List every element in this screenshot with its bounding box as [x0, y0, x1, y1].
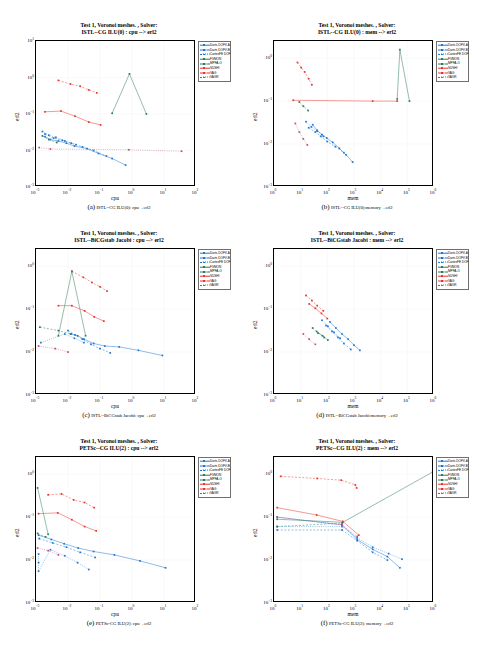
- data-point: [70, 333, 72, 335]
- data-point: [292, 99, 294, 101]
- x-tick-label: 102: [323, 396, 330, 403]
- plot-panel-d: Test 1, Voronoi meshes. , Solver:ISTL--B…: [243, 228, 471, 433]
- data-point: [280, 475, 282, 477]
- panel-title-line1: Test 1, Voronoi meshes. , Solver:: [5, 22, 233, 29]
- data-point: [305, 121, 307, 123]
- data-point: [44, 133, 46, 135]
- legend-item[interactable]: VAGR: [438, 491, 467, 496]
- data-point: [297, 62, 299, 64]
- series-cartesfe-dof: [42, 131, 77, 146]
- plot-panel-a: Test 1, Voronoi meshes. , Solver:ISTL--C…: [5, 20, 233, 225]
- data-point: [327, 339, 329, 341]
- data-point: [316, 478, 318, 480]
- data-point: [53, 137, 55, 139]
- legend-item[interactable]: VAGR: [200, 283, 229, 288]
- x-tick-label: 10−2: [63, 188, 72, 195]
- x-tick-label: 101: [296, 188, 303, 195]
- data-point: [316, 514, 318, 516]
- legend-item[interactable]: VAGR: [438, 283, 467, 288]
- x-tick-label: 102: [323, 188, 330, 195]
- data-point: [372, 546, 374, 548]
- plot-canvas-a: [36, 41, 195, 186]
- data-point: [276, 526, 278, 528]
- x-tick-label: 10−3: [31, 188, 40, 195]
- y-axis-label: erl2: [252, 321, 258, 329]
- panel-caption-d: (d) ISTL--BiCGstab Jacobi:memory→erl2: [243, 411, 471, 419]
- data-point: [354, 484, 356, 486]
- data-point: [94, 557, 96, 559]
- y-tick-label: 100: [27, 262, 34, 269]
- data-point: [352, 161, 354, 163]
- x-axis-label: mem: [273, 195, 433, 201]
- data-point: [332, 141, 334, 143]
- series-vagr: [38, 345, 69, 353]
- panel-caption-e: (e) PETSc-CG ILU(2): cpu→erl2: [5, 619, 233, 627]
- plot-canvas-b: [274, 41, 433, 186]
- data-point: [45, 536, 47, 538]
- y-tick-label: 10−1: [263, 305, 272, 312]
- data-point: [64, 555, 66, 557]
- data-point: [334, 146, 336, 148]
- legend-swatch-icon: [438, 283, 448, 288]
- data-point: [79, 551, 81, 553]
- data-point: [128, 149, 130, 151]
- plot-panel-c: Test 1, Voronoi meshes. , Solver:ISTL--B…: [5, 228, 233, 433]
- data-point: [396, 100, 398, 102]
- caption-label: (e): [87, 619, 95, 627]
- series-mpfa-o: [312, 327, 325, 338]
- data-point: [88, 89, 90, 91]
- legend-item[interactable]: VAGR: [200, 75, 229, 80]
- data-point: [40, 342, 42, 344]
- data-point: [106, 155, 108, 157]
- series-darts-dofv-b: [67, 330, 111, 354]
- data-point: [66, 142, 68, 144]
- y-tick-label: 10−2: [25, 348, 34, 355]
- legend-f: Darts DOFV-ADarts DOFV-BCartesFE DOFFVMO…: [436, 457, 469, 498]
- data-point: [343, 343, 345, 345]
- x-tick-label: 106: [430, 604, 437, 611]
- series-mpfa-o: [39, 326, 72, 335]
- data-point: [276, 518, 278, 520]
- gridlines: [36, 457, 195, 602]
- data-point: [359, 349, 361, 351]
- data-point: [276, 529, 278, 531]
- data-point: [91, 282, 93, 284]
- data-point: [317, 332, 319, 334]
- legend-swatch-icon: [438, 491, 448, 496]
- series-fvmon: [276, 471, 433, 523]
- data-point: [302, 138, 304, 140]
- legend-label: VAGR: [210, 75, 219, 80]
- data-point: [64, 333, 66, 335]
- x-axis-label: mem: [273, 403, 433, 409]
- series-darts-dofv-a: [38, 534, 167, 568]
- data-point: [77, 562, 79, 564]
- x-axis-label: mem: [273, 611, 433, 617]
- y-tick-label: 100: [27, 470, 34, 477]
- series-sushi: [44, 110, 101, 126]
- x-axis-label: cpu: [35, 403, 195, 409]
- panel-title-line1: Test 1, Voronoi meshes. , Solver:: [243, 230, 471, 237]
- y-tick-label: 10−2: [25, 146, 34, 153]
- legend-item[interactable]: VAGR: [200, 491, 229, 496]
- data-point: [93, 316, 95, 318]
- data-point: [50, 549, 52, 551]
- x-tick-label: 102: [192, 396, 199, 403]
- data-point: [327, 325, 329, 327]
- data-point: [314, 131, 316, 133]
- x-tick-label: 101: [160, 396, 167, 403]
- data-point: [50, 148, 52, 150]
- series-sushi: [276, 507, 359, 536]
- series-darts-dofv-a: [70, 333, 164, 356]
- legend-item[interactable]: VAGR: [438, 75, 467, 80]
- data-point: [38, 553, 40, 555]
- series-darts-dofv-b: [308, 127, 345, 154]
- data-point: [372, 548, 374, 550]
- caption-label: (a): [87, 203, 95, 211]
- y-tick-label: 100: [265, 470, 272, 477]
- y-tick-label: 10−1: [25, 513, 34, 520]
- data-point: [99, 348, 101, 350]
- data-point: [56, 142, 58, 144]
- data-point: [312, 124, 314, 126]
- data-point: [372, 551, 374, 553]
- data-point: [372, 100, 374, 102]
